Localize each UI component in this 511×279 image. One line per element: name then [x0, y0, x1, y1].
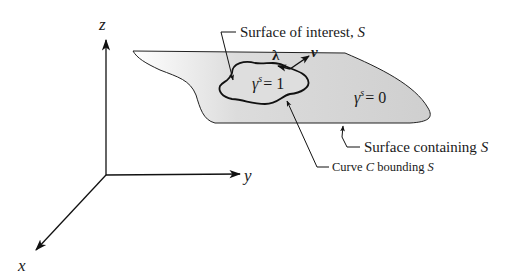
x-axis-label: x: [17, 256, 26, 275]
surface-containing-label: Surface containing S: [364, 139, 489, 155]
nu-label: ν: [311, 44, 318, 60]
gamma-outside-label: γs= 0: [354, 87, 386, 107]
y-axis: [106, 174, 240, 175]
curve-c-label: Curve C bounding S: [332, 160, 435, 174]
z-axis-label: z: [98, 15, 106, 34]
x-axis: [36, 175, 106, 250]
gamma-inside-label: γs= 1: [252, 73, 284, 93]
diagram-canvas: z y x λ ν γs= 1 γs= 0 Surface of interes…: [0, 0, 511, 279]
y-axis-label: y: [242, 166, 252, 185]
surface-of-interest-label: Surface of interest, S: [240, 24, 365, 40]
leader-surface-containing: [342, 126, 360, 147]
lambda-label: λ: [272, 47, 280, 63]
